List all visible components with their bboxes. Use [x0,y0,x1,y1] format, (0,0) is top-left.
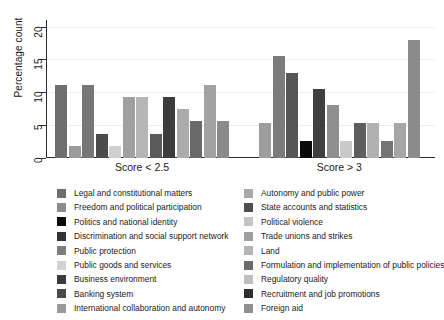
bar [286,73,298,158]
legend-item: Formulation and implementation of public… [244,258,444,272]
legend-label: Business environment [74,275,156,283]
legend-swatch-icon [57,203,66,212]
y-tick-label: 10 [33,92,44,114]
legend-label: Legal and constitutional matters [74,189,192,197]
bar [367,123,379,158]
bar [217,121,229,158]
legend-item: Politics and national identity [57,215,229,229]
legend-item: Freedom and political participation [57,200,229,214]
legend-swatch-icon [57,232,66,241]
legend-swatch-icon [244,261,253,270]
bar [327,105,339,158]
legend-column-right: Autonomy and public powerState accounts … [244,186,444,316]
legend-label: Political violence [261,218,323,226]
legend-item: Land [244,244,444,258]
bar [123,97,135,158]
bar [82,85,94,158]
legend-swatch-icon [244,232,253,241]
y-tick-label: 0 [33,158,44,180]
x-axis-group-label: Score > 3 [279,161,399,173]
y-tick-label: 20 [33,26,44,48]
legend-label: Public protection [74,247,136,255]
bar [150,134,162,158]
legend-swatch-icon [244,304,253,313]
legend-label: Autonomy and public power [261,189,364,197]
bar [204,85,216,158]
bar [259,123,271,158]
legend-swatch-icon [244,275,253,284]
legend-swatch-icon [244,203,253,212]
legend-swatch-icon [57,261,66,270]
legend-item: Public protection [57,244,229,258]
legend-label: Regulatory quality [261,275,328,283]
legend-item: Legal and constitutional matters [57,186,229,200]
legend-column-left: Legal and constitutional mattersFreedom … [57,186,229,316]
bar [273,56,285,158]
legend-item: Regulatory quality [244,272,444,286]
legend-label: Freedom and political participation [74,203,202,211]
legend-item: Trade unions and strikes [244,229,444,243]
plot-area: Percentage count 05101520 Score < 2.5Sco… [0,0,441,182]
bar [69,146,81,158]
y-tick-label: 5 [33,125,44,147]
bar [394,123,406,158]
bar [136,97,148,158]
legend-item: Business environment [57,272,229,286]
legend-swatch-icon [57,246,66,255]
bar [190,121,202,158]
bar [408,40,420,158]
y-axis-title: Percentage count [13,0,24,128]
legend-label: Foreign aid [261,304,303,312]
legend-swatch-icon [244,246,253,255]
legend-item: Discrimination and social support networ… [57,229,229,243]
legend-label: Recruitment and job promotions [261,290,380,298]
y-tick-label: 15 [33,59,44,81]
legend-label: International collaboration and autonomy [74,304,225,312]
bar [300,141,312,158]
legend-label: Land [261,247,280,255]
legend-label: Formulation and implementation of public… [261,261,444,269]
legend-item: Foreign aid [244,301,444,315]
legend-swatch-icon [57,289,66,298]
legend-item: Political violence [244,215,444,229]
legend-label: Banking system [74,290,133,298]
bar [55,85,67,158]
legend-item: State accounts and statistics [244,200,444,214]
bar [163,97,175,158]
legend-swatch-icon [244,189,253,198]
chart-legend: Legal and constitutional mattersFreedom … [0,186,441,320]
legend-item: Autonomy and public power [244,186,444,200]
legend-swatch-icon [57,217,66,226]
legend-label: State accounts and statistics [261,203,367,211]
legend-item: International collaboration and autonomy [57,301,229,315]
legend-label: Public goods and services [74,261,171,269]
legend-item: Banking system [57,287,229,301]
bar [177,109,189,158]
bar-series-container [47,20,435,158]
bar [96,134,108,158]
legend-swatch-icon [57,275,66,284]
bar [381,141,393,158]
bar [109,146,121,158]
legend-label: Discrimination and social support networ… [74,232,229,240]
legend-item: Public goods and services [57,258,229,272]
x-axis-group-label: Score < 2.5 [82,161,202,173]
legend-swatch-icon [244,289,253,298]
legend-swatch-icon [57,189,66,198]
legend-swatch-icon [57,304,66,313]
bar [340,141,352,158]
legend-label: Politics and national identity [74,218,177,226]
legend-swatch-icon [244,217,253,226]
legend-label: Trade unions and strikes [261,232,352,240]
bar [313,89,325,158]
legend-item: Recruitment and job promotions [244,287,444,301]
bar [354,123,366,158]
